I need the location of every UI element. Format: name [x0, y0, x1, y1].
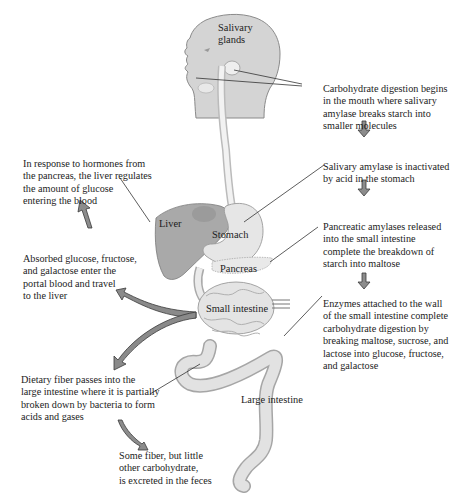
- label-large-intestine: Large intestine: [241, 394, 303, 406]
- curved-down-arrow-icon: [118, 420, 148, 450]
- note-absorption: Absorbed glucose, fructose, and galactos…: [23, 253, 137, 303]
- step-intestinal-enzymes: Enzymes attached to the wall of the smal…: [323, 298, 448, 372]
- step-stomach-inactivation: Salivary amylase is inactivated by acid …: [323, 161, 449, 186]
- note-liver-regulation: In response to hormones from the pancrea…: [23, 158, 152, 208]
- note-dietary-fiber: Dietary fiber passes into the large inte…: [21, 374, 160, 424]
- label-liver: Liver: [159, 218, 182, 230]
- salivary-gland-shape: [224, 61, 240, 75]
- small-intestine-shape: [198, 268, 290, 336]
- step-pancreatic-amylase: Pancreatic amylases released into the sm…: [323, 221, 441, 271]
- label-stomach: Stomach: [212, 229, 248, 241]
- label-small-intestine: Small intestine: [206, 303, 268, 315]
- step-mouth-digestion: Carbohydrate digestion begins in the mou…: [323, 83, 448, 133]
- note-excretion: Some fiber, but little other carbohydrat…: [119, 450, 212, 487]
- down-arrow-icon: [358, 273, 370, 289]
- label-salivary-glands: Salivary glands: [218, 22, 253, 46]
- label-pancreas: Pancreas: [220, 263, 257, 275]
